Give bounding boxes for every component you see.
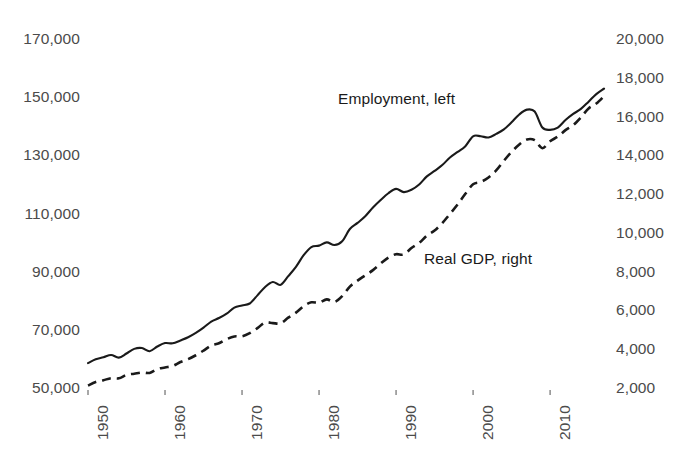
annotation-real-gdp: Real GDP, right xyxy=(424,250,532,268)
y-axis-right-tick-4000: 4,000 xyxy=(616,340,655,358)
x-axis-tick-2010: 2010 xyxy=(556,405,574,440)
y-axis-right-tick-10000: 10,000 xyxy=(616,224,664,242)
y-axis-left-tick-50000: 50,000 xyxy=(32,379,80,397)
y-axis-right-tick-8000: 8,000 xyxy=(616,263,655,281)
y-axis-right-tick-20000: 20,000 xyxy=(616,30,664,48)
y-axis-left-tick-90000: 90,000 xyxy=(32,263,80,281)
y-axis-right-tick-16000: 16,000 xyxy=(616,108,664,126)
y-axis-left-tick-150000: 150,000 xyxy=(23,88,80,106)
x-axis-tick-1970: 1970 xyxy=(248,405,266,440)
y-axis-right-tick-2000: 2,000 xyxy=(616,379,655,397)
x-axis-tick-1980: 1980 xyxy=(325,405,343,440)
y-axis-right-tick-6000: 6,000 xyxy=(616,301,655,319)
y-axis-left-tick-170000: 170,000 xyxy=(23,30,80,48)
y-axis-right-tick-18000: 18,000 xyxy=(616,69,664,87)
y-axis-left-tick-130000: 130,000 xyxy=(23,146,80,164)
x-axis-tick-1960: 1960 xyxy=(171,405,189,440)
chart-plot-area xyxy=(0,0,691,451)
x-axis-ticks xyxy=(88,390,550,395)
x-axis-tick-1950: 1950 xyxy=(94,405,112,440)
x-axis-tick-2000: 2000 xyxy=(479,405,497,440)
y-axis-right-tick-12000: 12,000 xyxy=(616,185,664,203)
annotation-employment: Employment, left xyxy=(338,90,455,108)
y-axis-left-tick-70000: 70,000 xyxy=(32,321,80,339)
series-line-employment xyxy=(88,89,604,364)
y-axis-right-tick-14000: 14,000 xyxy=(616,146,664,164)
x-axis-tick-1990: 1990 xyxy=(402,405,420,440)
chart-figure: 50,00070,00090,000110,000130,000150,0001… xyxy=(0,0,691,451)
y-axis-left-tick-110000: 110,000 xyxy=(24,205,80,223)
